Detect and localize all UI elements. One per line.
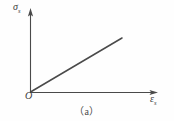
data-line-linear (31, 38, 123, 92)
y-axis-label: σs (13, 2, 20, 15)
figure-caption: （a） (0, 103, 174, 118)
origin-label: O (25, 91, 32, 101)
stress-strain-figure: σs εs O （a） (0, 0, 174, 121)
y-axis-subscript: s (18, 7, 21, 14)
